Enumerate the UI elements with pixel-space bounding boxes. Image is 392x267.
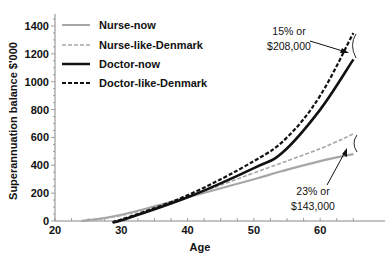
legend-item-nurse-now: Nurse-now [62,19,156,31]
legend-item-doctor-now: Doctor-now [62,58,161,70]
x-tick-label: 50 [248,224,260,236]
nurse-gap-brace [354,135,357,152]
x-tick-label: 30 [115,224,127,236]
legend-item-doctor-like-denmark: Doctor-like-Denmark [62,77,208,89]
legend-label-nurse-like-denmark: Nurse-like-Denmark [99,39,204,51]
y-tick-label: 1000 [25,76,49,88]
y-tick-label: 400 [31,159,49,171]
y-axis-title: Superannuation balance $'000 [7,42,19,200]
y-axis-ticks: 0200400600800100012001400 [25,19,55,227]
y-tick-label: 600 [31,131,49,143]
y-tick-label: 800 [31,104,49,116]
legend-label-doctor-like-denmark: Doctor-like-Denmark [99,77,208,89]
y-tick-label: 1400 [25,20,49,32]
annotation-doctor-line2: $208,000 [267,40,311,52]
annotation-nurse-line2: $143,000 [291,200,335,212]
x-tick-label: 20 [49,224,61,236]
legend: Nurse-now Nurse-like-Denmark Doctor-now … [62,19,208,89]
legend-label-doctor-now: Doctor-now [99,58,161,70]
x-tick-label: 60 [314,224,326,236]
annotation-doctor-arrow [310,41,346,52]
annotation-nurse-line1: 23% or [296,185,330,197]
legend-item-nurse-like-denmark: Nurse-like-Denmark [62,39,204,51]
y-tick-label: 1200 [25,48,49,60]
x-axis-title: Age [190,241,211,253]
superannuation-chart: 0200400600800100012001400 2030405060 Sup… [0,0,392,267]
legend-label-nurse-now: Nurse-now [99,19,156,31]
annotation-doctor-line1: 15% or [272,25,306,37]
x-tick-label: 40 [181,224,193,236]
y-tick-label: 200 [31,187,49,199]
doctor-gap-brace [353,34,357,58]
